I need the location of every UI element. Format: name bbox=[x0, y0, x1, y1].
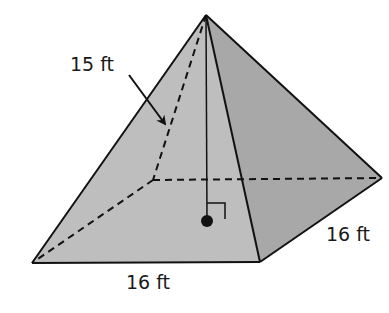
height-line bbox=[206, 15, 207, 221]
pyramid-diagram bbox=[0, 0, 389, 313]
slant-height-label: 15 ft bbox=[70, 53, 114, 75]
base-right-edge-label: 16 ft bbox=[326, 223, 370, 245]
base-front-edge-label: 16 ft bbox=[126, 271, 170, 293]
base-center-dot bbox=[201, 215, 213, 227]
